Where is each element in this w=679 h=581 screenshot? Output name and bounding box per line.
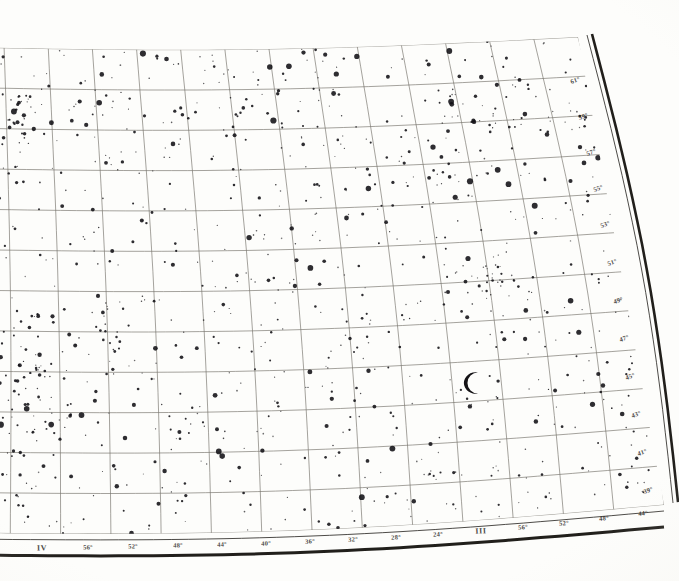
star-point <box>631 362 633 364</box>
star-point <box>110 249 114 253</box>
star-point <box>93 495 94 496</box>
star-point <box>13 335 15 337</box>
star-point <box>486 41 489 44</box>
star-point <box>359 494 365 500</box>
star-point <box>525 448 527 450</box>
star-point <box>31 488 33 490</box>
star-point <box>581 309 582 310</box>
star-point <box>113 349 115 351</box>
star-point <box>465 256 470 261</box>
star-point <box>88 354 89 355</box>
star-point <box>472 35 475 38</box>
star-point <box>277 319 279 321</box>
star-point <box>94 390 97 393</box>
star-point <box>570 263 573 266</box>
star-point <box>184 482 187 485</box>
star-point <box>449 95 451 97</box>
star-point <box>35 354 36 355</box>
star-point <box>244 448 245 449</box>
star-point <box>600 391 603 394</box>
star-point <box>550 498 551 499</box>
star-point <box>212 261 213 262</box>
star-point <box>491 475 493 477</box>
star-point <box>444 237 446 239</box>
star-point <box>58 438 61 441</box>
star-point <box>260 449 264 453</box>
star-point <box>368 174 371 177</box>
star-point <box>93 250 95 252</box>
star-point <box>366 186 371 191</box>
star-point <box>480 229 482 231</box>
star-point <box>6 474 7 475</box>
star-point <box>37 396 40 399</box>
star-point <box>476 342 478 344</box>
star-point <box>318 283 322 287</box>
star-point <box>305 166 307 168</box>
star-point <box>492 277 493 278</box>
star-point <box>32 432 34 434</box>
star-point <box>439 102 441 104</box>
star-point <box>211 158 214 161</box>
star-point <box>368 342 369 343</box>
star-point <box>235 274 239 278</box>
star-point <box>155 428 156 429</box>
star-point <box>256 431 257 432</box>
star-point <box>8 119 10 121</box>
star-point <box>420 301 422 303</box>
star-point <box>405 129 407 131</box>
star-point <box>582 161 587 166</box>
star-point <box>471 303 473 305</box>
star-point <box>267 64 273 70</box>
star-point <box>508 126 511 129</box>
star-point <box>180 355 184 359</box>
star-point <box>528 388 530 390</box>
star-point <box>235 113 238 116</box>
star-point <box>419 240 420 241</box>
star-point <box>478 284 481 287</box>
star-point <box>610 214 611 215</box>
star-point <box>412 499 416 503</box>
star-point <box>486 298 487 299</box>
star-point <box>264 234 265 235</box>
star-point <box>638 323 642 327</box>
star-point <box>97 421 99 423</box>
star-point <box>621 404 622 405</box>
star-point <box>139 173 140 174</box>
star-point <box>316 183 319 186</box>
star-point <box>2 93 4 95</box>
star-point <box>41 104 42 105</box>
star-point <box>52 321 55 324</box>
star-point <box>489 131 492 134</box>
star-point <box>360 393 361 394</box>
star-point <box>123 510 125 512</box>
star-point <box>303 508 306 511</box>
star-point <box>21 124 23 126</box>
star-point <box>78 337 80 339</box>
star-point <box>26 431 28 433</box>
star-point <box>258 196 261 199</box>
star-point <box>100 72 105 77</box>
star-point <box>295 243 297 245</box>
star-point <box>497 281 499 283</box>
star-point <box>94 90 95 91</box>
star-point <box>12 449 15 452</box>
star-point <box>153 460 156 463</box>
star-point <box>238 347 240 349</box>
star-point <box>93 399 97 403</box>
star-point <box>427 139 429 141</box>
star-point <box>132 403 136 407</box>
star-point <box>468 404 472 408</box>
star-point <box>233 76 235 78</box>
star-point <box>584 392 585 393</box>
star-point <box>565 71 567 73</box>
star-point <box>102 471 103 472</box>
star-point <box>4 499 6 501</box>
star-point <box>417 303 418 304</box>
star-point <box>513 331 515 333</box>
star-point <box>113 350 116 353</box>
star-point <box>538 379 539 380</box>
star-point <box>109 157 110 158</box>
star-point <box>33 415 34 416</box>
star-point <box>185 418 187 420</box>
star-point <box>576 330 581 335</box>
